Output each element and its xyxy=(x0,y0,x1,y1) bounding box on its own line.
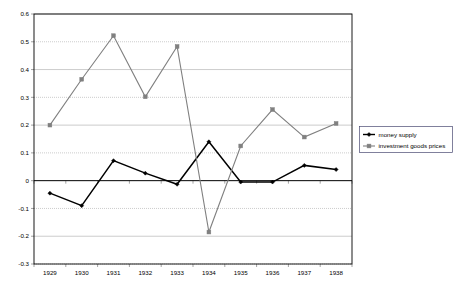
data-point-marker xyxy=(175,45,179,49)
x-axis-tick-label: 1930 xyxy=(75,269,89,276)
legend-item-label: investment goods prices xyxy=(379,142,446,149)
x-axis-tick-label: 1937 xyxy=(297,269,311,276)
x-axis-tick-label: 1929 xyxy=(43,269,57,276)
y-axis-tick-label: 0.5 xyxy=(20,38,29,45)
data-point-marker xyxy=(80,77,84,81)
data-point-marker xyxy=(334,122,338,126)
legend-item-label: money supply xyxy=(379,131,418,138)
x-axis-tick-label: 1938 xyxy=(329,269,343,276)
y-axis-tick-label: 0.4 xyxy=(20,66,29,73)
data-point-marker xyxy=(143,95,147,99)
y-axis-tick-label: -0.2 xyxy=(18,232,29,239)
x-axis-tick-label: 1936 xyxy=(266,269,280,276)
x-axis-tick-label: 1933 xyxy=(170,269,184,276)
chart-legend: money supplyinvestment goods prices xyxy=(360,127,453,153)
data-point-marker xyxy=(207,230,211,234)
line-chart: 0.60.50.40.30.20.10-0.1-0.2-0.3 19291930… xyxy=(0,0,456,285)
x-axis-tick-label: 1934 xyxy=(202,269,216,276)
y-axis-tick-label: 0.1 xyxy=(20,149,29,156)
data-point-marker xyxy=(112,34,116,38)
data-point-marker xyxy=(302,135,306,139)
y-axis-tick-label: 0.6 xyxy=(20,10,29,17)
data-point-marker xyxy=(271,108,275,112)
data-point-marker xyxy=(239,144,243,148)
y-axis-tick-label: 0 xyxy=(26,177,30,184)
x-axis-tick-label: 1935 xyxy=(234,269,248,276)
legend-marker-swatch xyxy=(367,144,371,148)
y-axis-tick-label: 0.3 xyxy=(20,94,29,101)
x-axis-tick-label: 1931 xyxy=(107,269,121,276)
chart-canvas: 0.60.50.40.30.20.10-0.1-0.2-0.3 19291930… xyxy=(0,0,456,285)
y-axis-tick-label: -0.1 xyxy=(18,205,29,212)
y-axis-tick-label: 0.2 xyxy=(20,121,29,128)
y-axis-tick-label: -0.3 xyxy=(18,260,29,267)
data-point-marker xyxy=(48,123,52,127)
x-axis-tick-label: 1932 xyxy=(138,269,152,276)
